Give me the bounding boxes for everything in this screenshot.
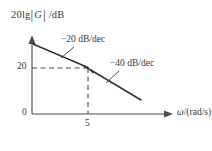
x-axis-title-symbol: ω	[177, 107, 184, 117]
slope-annotation-minus-20: −20 dB/dec	[61, 35, 105, 45]
leader-line-slope-2	[106, 71, 119, 83]
y-tick-label-0: 0	[22, 108, 27, 118]
x-axis-title: ω/(rad/s)	[177, 108, 211, 118]
x-tick-label-5: 5	[85, 119, 90, 129]
bode-plot-figure: 20lg|G| /dB 20 0 5 −20 dB/dec −40 dB/dec…	[0, 0, 212, 151]
x-axis-arrow-icon	[164, 110, 173, 117]
y-axis-title-symbol: G	[33, 9, 43, 20]
y-tick-label-20: 20	[17, 62, 27, 72]
slope-annotation-minus-40: −40 dB/dec	[110, 59, 154, 69]
y-axis-arrow-icon	[29, 35, 36, 44]
magnitude-curve-segment-1	[33, 44, 88, 68]
y-axis-title-suffix: /dB	[49, 9, 65, 20]
plot-canvas	[0, 0, 212, 151]
y-axis-title: 20lg|G| /dB	[11, 8, 65, 21]
x-axis-title-unit: /(rad/s)	[184, 107, 211, 117]
leader-line-slope-1	[61, 47, 74, 58]
y-axis-title-prefix: 20lg	[11, 9, 30, 20]
abs-bar-close-icon: |	[43, 7, 46, 22]
